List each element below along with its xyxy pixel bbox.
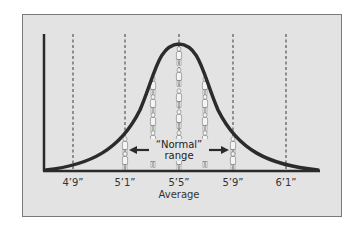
x-tick-label-4-9: 4’9” [53, 177, 93, 188]
x-tick-label-6-1: 6’1” [266, 177, 306, 188]
x-tick-label-5-5: 5’5” [159, 177, 199, 188]
x-tick-label-5-9: 5’9” [213, 177, 253, 188]
average-label: Average [149, 189, 209, 200]
normal-range-label: “Normal” range [149, 139, 209, 161]
x-tick-label-5-1: 5’1” [105, 177, 145, 188]
normal-range-label-line2: range [149, 150, 209, 161]
normal-range-label-line1: “Normal” [149, 139, 209, 150]
